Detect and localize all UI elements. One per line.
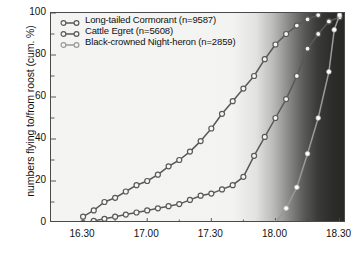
legend-label: Cattle Egret (n=5608)	[85, 25, 173, 36]
legend-item: Black-crowned Night-heron (n=2859)	[60, 36, 235, 46]
legend-item: Cattle Egret (n=5608)	[60, 25, 235, 35]
legend-symbol-icon	[60, 14, 80, 24]
x-tick-label: 16.30	[60, 228, 104, 239]
legend-symbol-icon	[60, 25, 80, 35]
x-tick-label: 17.30	[188, 228, 232, 239]
legend-label: Black-crowned Night-heron (n=2859)	[85, 36, 235, 47]
legend-symbol-icon	[60, 36, 80, 46]
x-tick-label: 17.00	[124, 228, 168, 239]
legend-label: Long-tailed Cormorant (n=9587)	[85, 14, 216, 25]
chart-legend: Long-tailed Cormorant (n=9587)Cattle Egr…	[60, 14, 235, 47]
chart-figure: numbers flying to/from roost (cum. %) 02…	[0, 0, 358, 254]
legend-item: Long-tailed Cormorant (n=9587)	[60, 14, 235, 24]
x-tick-label: 18.30	[317, 228, 358, 239]
x-tick-label: 18.00	[252, 228, 296, 239]
